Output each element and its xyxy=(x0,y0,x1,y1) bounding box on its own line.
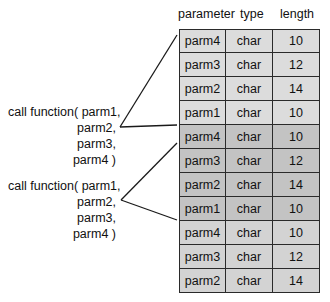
bracket-line-call1-top xyxy=(120,35,177,127)
bracket-line-call2-bottom xyxy=(121,200,177,220)
bracket-lines xyxy=(0,0,330,302)
bracket-line-call2-top xyxy=(121,143,177,200)
bracket-line-call1-bottom xyxy=(120,125,177,127)
